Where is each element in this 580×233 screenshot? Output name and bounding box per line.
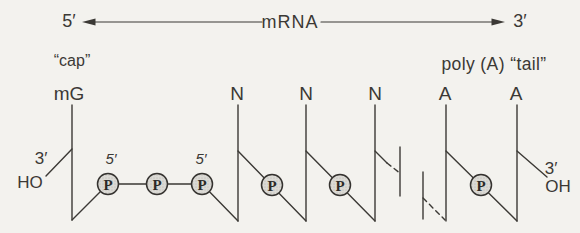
cap-hydroxyl-ho-label: HO	[17, 173, 43, 192]
cap-hydroxyl-bond-line	[46, 149, 72, 176]
internal-nucleotides: N N N P P	[230, 83, 382, 221]
break-bond-dashed-line-2	[423, 198, 445, 220]
chain-break	[375, 147, 445, 220]
base-label-n3: N	[368, 83, 382, 104]
phosphate-p-label: P	[476, 178, 485, 194]
mrna-structure-figure: 5′ mRNA 3′ “cap” mG 3′ HO 5′ 5′ P P P N …	[0, 0, 580, 233]
base-label-n2: N	[299, 83, 313, 104]
base-label-n1: N	[230, 83, 244, 104]
cap-group: “cap” mG 3′ HO 5′ 5′ P P P	[17, 52, 238, 221]
phosphate-p-label: P	[103, 177, 112, 193]
right-arrowhead-icon	[492, 19, 506, 26]
mrna-label: mRNA	[262, 12, 319, 32]
polya-tail-group: poly (A) “tail” A A P 3′ OH	[439, 54, 571, 221]
polya-tail-label: poly (A) “tail”	[441, 54, 546, 74]
five-prime-linkage-label-right: 5′	[195, 150, 207, 167]
tail-three-prime-label: 3′	[545, 159, 558, 178]
five-prime-end-label: 5′	[62, 11, 76, 31]
base-label-a2: A	[510, 83, 523, 104]
break-bond-dashed-line-1	[387, 163, 401, 174]
phosphate-p-label: P	[197, 177, 206, 193]
mrna-axis: 5′ mRNA 3′	[62, 11, 527, 32]
five-prime-linkage-label-left: 5′	[105, 150, 117, 167]
phosphate-p-label: P	[152, 177, 161, 193]
phosphate-p-label: P	[335, 178, 344, 194]
cap-three-prime-label: 3′	[35, 149, 48, 168]
tail-hydroxyl-bond-line	[517, 151, 547, 177]
cap-base-mg-label: mG	[54, 83, 85, 104]
phosphate-p-label: P	[267, 178, 276, 194]
cap-label: “cap”	[54, 52, 90, 69]
three-prime-end-label: 3′	[513, 11, 527, 31]
mrna-structure-diagram: 5′ mRNA 3′ “cap” mG 3′ HO 5′ 5′ P P P N …	[0, 0, 580, 233]
tail-hydroxyl-oh-label: OH	[545, 177, 571, 196]
break-bond-solid-line	[375, 151, 387, 163]
base-label-a1: A	[439, 83, 452, 104]
